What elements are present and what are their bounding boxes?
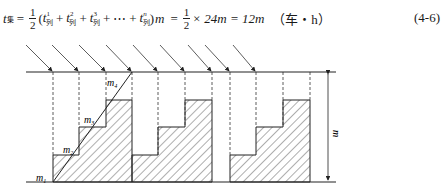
term-3: t3列 [90,10,100,27]
equation-number: (4-6) [414,10,440,26]
equals-sign: = [17,11,24,27]
term-n: tn列 [140,10,150,27]
rhs-result: × 24m = 12m [192,11,264,27]
accumulation-diagram: m m1 m2 m3 m4 [0,36,444,183]
hatched-block-1 [53,100,132,182]
m-var: m [155,11,164,27]
height-label: m [331,130,342,137]
fraction-half: 1 2 [29,6,37,31]
label-m3: m3 [84,114,94,126]
fraction-half-2: 1 2 [183,6,191,31]
close-paren: ) [150,11,154,27]
formula-row: t集 = 1 2 ( t1列 + t2列 + t3列 + ⋯ + tn列 ) m… [0,0,444,40]
label-m4: m4 [107,77,117,89]
hatched-block-2 [132,100,212,182]
hatched-block-3 [230,100,310,182]
ellipsis: ⋯ [113,11,126,27]
term-1: t1列 [43,10,53,27]
term-2: t2列 [66,10,76,27]
lhs-sub: 集 [7,14,14,24]
label-m2: m2 [63,144,73,156]
label-m1: m1 [36,172,46,183]
arrival-arrows [26,45,255,71]
equation-4-6: t集 = 1 2 ( t1列 + t2列 + t3列 + ⋯ + tn列 ) m… [3,6,331,31]
unit-label: （车・h） [272,9,331,28]
